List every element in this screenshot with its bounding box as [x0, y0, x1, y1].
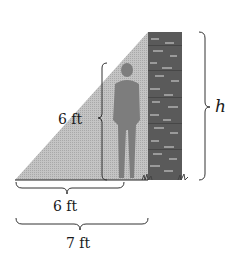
label-person-height: 6 ft	[58, 112, 82, 126]
label-wall-height: h	[215, 98, 226, 115]
label-person-shadow: 6 ft	[53, 199, 77, 213]
brace-wall-height	[199, 32, 210, 180]
brace-total-shadow	[16, 218, 148, 230]
brace-person-shadow	[16, 182, 124, 194]
brick-wall	[142, 32, 188, 180]
similar-triangles-diagram: 6 ft h 6 ft 7 ft	[0, 0, 240, 261]
label-total-shadow: 7 ft	[66, 236, 90, 250]
